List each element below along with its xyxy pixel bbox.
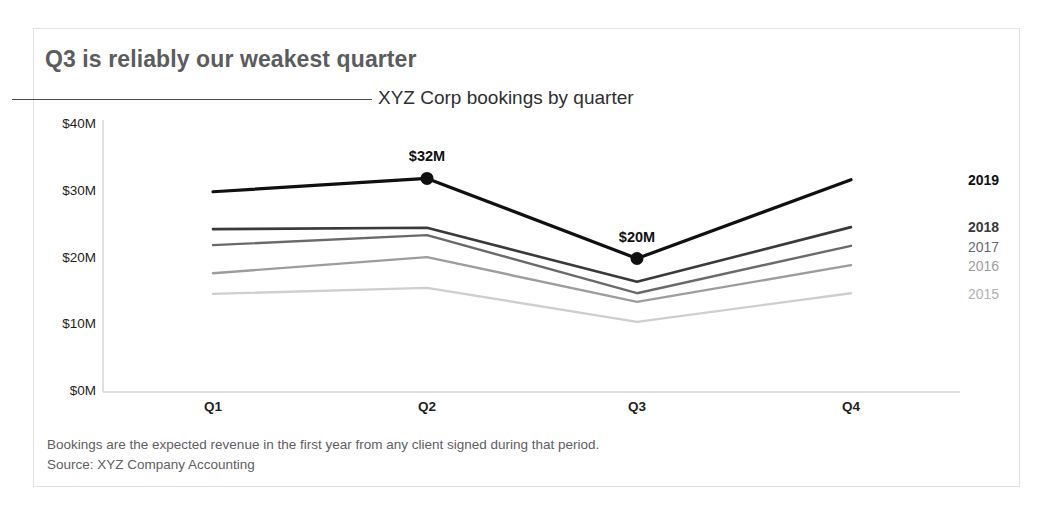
x-axis-tick-label: Q1 [204, 399, 222, 414]
footnote-description: Bookings are the expected revenue in the… [47, 437, 599, 452]
y-axis-tick-label: $30M [62, 183, 96, 198]
data-point-label: $20M [619, 229, 655, 245]
y-axis-tick-label: $40M [62, 116, 96, 131]
series-label-2015: 2015 [968, 286, 999, 302]
footnote-source: Source: XYZ Company Accounting [47, 457, 255, 472]
series-label-2018: 2018 [968, 219, 999, 235]
data-point-label: $32M [409, 148, 445, 164]
x-axis-tick-label: Q2 [418, 399, 436, 414]
y-axis-tick-label: $20M [62, 250, 96, 265]
x-axis-tick-label: Q4 [842, 399, 860, 414]
series-label-2019: 2019 [968, 172, 999, 188]
y-axis-tick-label: $10M [62, 316, 96, 331]
series-label-2016: 2016 [968, 258, 999, 274]
y-axis-tick-label: $0M [70, 383, 96, 398]
chart-page: Q3 is reliably our weakest quarter XYZ C… [0, 0, 1047, 515]
series-label-2017: 2017 [968, 239, 999, 255]
x-axis-tick-label: Q3 [628, 399, 646, 414]
